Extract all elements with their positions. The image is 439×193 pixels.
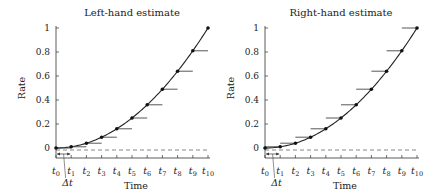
y-tick-label: 0.8 xyxy=(36,47,51,57)
y-tick-label: 0 xyxy=(253,143,259,153)
y-axis-label: Rate xyxy=(225,76,236,99)
rate-curve xyxy=(56,28,208,148)
y-tick-label: 0.4 xyxy=(245,95,260,105)
delta-t-label: Δt xyxy=(270,177,282,188)
x-tick-label: t7 xyxy=(367,165,375,178)
x-tick-label: t3 xyxy=(307,165,315,178)
data-point xyxy=(370,87,374,91)
data-point xyxy=(115,127,119,131)
x-axis-label: Time xyxy=(333,180,357,191)
y-tick-label: 0.6 xyxy=(36,71,51,81)
data-point xyxy=(54,146,58,150)
y-tick-label: 0.8 xyxy=(245,47,260,57)
x-tick-label: t0 xyxy=(261,165,269,178)
x-tick-label: t4 xyxy=(322,165,330,178)
y-tick-label: 0.2 xyxy=(245,119,259,129)
x-tick-label: t5 xyxy=(128,165,136,178)
data-point xyxy=(85,141,89,145)
y-tick-label: 0.6 xyxy=(245,71,260,81)
x-tick-label: t6 xyxy=(352,165,360,178)
x-tick-label: t8 xyxy=(383,165,391,178)
data-point xyxy=(278,145,282,149)
data-point xyxy=(415,26,419,30)
data-point xyxy=(385,69,389,73)
x-tick-label: t10 xyxy=(202,165,214,178)
x-axis-label: Time xyxy=(124,180,148,191)
x-tick-label: t8 xyxy=(174,165,182,178)
data-point xyxy=(100,135,104,139)
y-tick-label: 1 xyxy=(253,23,259,33)
x-tick-label: t5 xyxy=(337,165,345,178)
data-point xyxy=(263,146,267,150)
x-tick-label: t9 xyxy=(189,165,197,178)
y-tick-label: 1 xyxy=(44,23,50,33)
rate-curve xyxy=(265,28,417,148)
data-point xyxy=(354,103,358,107)
y-axis-label: Rate xyxy=(16,76,27,99)
panel-left-estimate: Left-hand estimate00.20.40.60.81Ratet0t1… xyxy=(16,7,214,191)
data-point xyxy=(69,145,73,149)
data-point xyxy=(191,49,195,53)
x-tick-label: t0 xyxy=(52,165,60,178)
x-tick-label: t7 xyxy=(158,165,166,178)
chart-title: Left-hand estimate xyxy=(84,7,180,18)
data-point xyxy=(309,135,313,139)
data-point xyxy=(324,127,328,131)
x-tick-label: t10 xyxy=(411,165,423,178)
y-tick-label: 0.2 xyxy=(36,119,50,129)
data-point xyxy=(130,116,134,120)
data-point xyxy=(339,116,343,120)
data-point xyxy=(206,26,210,30)
y-tick-label: 0.4 xyxy=(36,95,51,105)
data-point xyxy=(145,103,149,107)
y-tick-label: 0 xyxy=(44,143,50,153)
x-tick-label: t2 xyxy=(291,165,299,178)
delta-t-label: Δt xyxy=(61,177,73,188)
data-point xyxy=(400,49,404,53)
chart-figure: Left-hand estimate00.20.40.60.81Ratet0t1… xyxy=(0,0,439,193)
chart-title: Right-hand estimate xyxy=(289,7,392,18)
data-point xyxy=(176,69,180,73)
x-tick-label: t2 xyxy=(82,165,90,178)
x-tick-label: t9 xyxy=(398,165,406,178)
x-tick-label: t6 xyxy=(143,165,151,178)
x-tick-label: t4 xyxy=(113,165,121,178)
data-point xyxy=(294,141,298,145)
x-tick-label: t3 xyxy=(98,165,106,178)
data-point xyxy=(161,87,165,91)
panel-right-estimate: Right-hand estimate00.20.40.60.81Ratet0t… xyxy=(225,7,423,191)
